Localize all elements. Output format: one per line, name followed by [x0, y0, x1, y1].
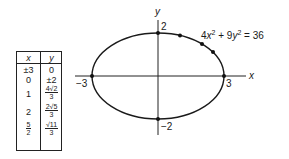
- table-header-divider: [17, 63, 61, 64]
- table-header-y: y: [40, 53, 63, 63]
- tick-label-y-neg2: −2: [161, 122, 172, 132]
- eq-rhs: = 36: [241, 30, 264, 41]
- tick-label-y-2: 2: [161, 22, 167, 32]
- numerator: 2√5: [45, 103, 59, 111]
- tick-label-x-3: 3: [226, 79, 232, 89]
- table-cell-x: 52: [17, 121, 40, 137]
- table-cell-y: 4√23: [40, 85, 63, 101]
- fraction: 4√23: [45, 85, 59, 100]
- numerator: 5: [26, 121, 32, 129]
- denominator: 3: [45, 111, 59, 118]
- y-axis-label: y: [155, 7, 160, 17]
- eq-plus: + 9: [215, 30, 232, 41]
- table-cell-y: ±2: [40, 75, 63, 85]
- denominator: 2: [26, 129, 32, 136]
- table-cell-x: 0: [17, 75, 40, 85]
- table-cell-x: 2: [17, 107, 40, 117]
- point-2-5: [211, 50, 215, 54]
- denominator: 3: [45, 129, 58, 136]
- equation-label: 4x2 + 9y2 = 36: [201, 28, 264, 41]
- table-header-x: x: [17, 53, 40, 63]
- table-cell-x: 1: [17, 89, 40, 99]
- point-0-neg2: [156, 117, 160, 121]
- table-cell-y: √113: [40, 121, 63, 137]
- table-cell-y: 2√53: [40, 103, 63, 119]
- point-neg3-0: [90, 74, 94, 78]
- table-cell-x: ±3: [17, 65, 40, 75]
- numerator: √11: [45, 121, 58, 129]
- point-0-2: [156, 31, 160, 35]
- fraction: 52: [26, 121, 32, 136]
- x-axis-label: x: [249, 71, 254, 81]
- denominator: 3: [45, 93, 59, 100]
- fraction: 2√53: [45, 103, 59, 118]
- table-cell-y: 0: [40, 65, 63, 75]
- point-2: [200, 42, 204, 46]
- numerator: 4√2: [45, 85, 59, 93]
- point-1: [178, 34, 182, 38]
- values-table: x y ±3 0 0 ±2 1 4√23 2 2√53 52 √113: [16, 51, 62, 151]
- tick-label-x-neg3: −3: [76, 79, 87, 89]
- fraction: √113: [45, 121, 58, 136]
